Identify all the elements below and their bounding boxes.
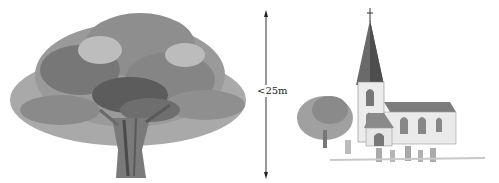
church-nave [384, 102, 456, 144]
church-spire [356, 8, 384, 85]
arrow-up-icon [264, 10, 268, 17]
large-tree-illustration [0, 0, 262, 183]
height-label: <25m [256, 85, 289, 97]
church-illustration [290, 0, 499, 183]
small-tree [297, 96, 353, 148]
arrow-down-icon [264, 172, 268, 179]
